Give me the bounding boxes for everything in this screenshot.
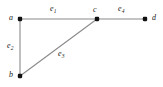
edge-label-e4-subscript: 4 (122, 8, 125, 14)
vertex-label-d: d (152, 14, 156, 22)
edge-label-e3: e3 (58, 50, 64, 58)
vertices-group (18, 17, 147, 78)
graph-canvas (0, 0, 163, 87)
vertex-label-c: c (93, 6, 97, 14)
edges-group (20, 19, 145, 76)
vertex-label-b: b (9, 71, 13, 79)
edge-label-e4: e4 (118, 5, 124, 13)
vertex-d-dot (143, 17, 147, 21)
vertex-a-dot (18, 17, 22, 21)
edge-label-e2: e2 (7, 42, 13, 50)
graph-diagram-figure: a b c d e1 e2 e3 e4 (0, 0, 163, 87)
vertex-b-dot (18, 74, 22, 78)
edge-label-e1-subscript: 1 (54, 8, 57, 14)
edge-e3-line (20, 19, 97, 76)
vertex-c-dot (95, 17, 99, 21)
edge-label-e1: e1 (50, 5, 56, 13)
edge-label-e2-subscript: 2 (11, 45, 14, 51)
edge-label-e3-subscript: 3 (62, 53, 65, 59)
vertex-label-a: a (9, 14, 13, 22)
